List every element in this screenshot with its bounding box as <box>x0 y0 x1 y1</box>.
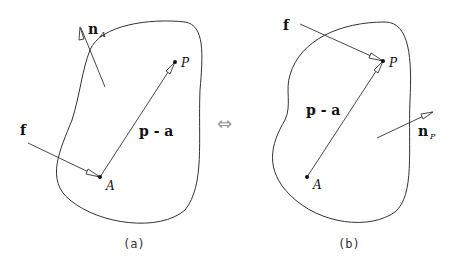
point-A-label-b: A <box>312 178 322 192</box>
vector-label-a: p - a <box>139 123 173 139</box>
caption-b: (b) <box>338 237 360 251</box>
point-A-a <box>98 175 102 179</box>
point-P-b <box>381 59 385 63</box>
normal-label-b: n <box>418 123 428 139</box>
arrowhead-nP <box>421 112 433 119</box>
arrowhead-pa-a <box>166 62 175 74</box>
panel-a: n A f p - a P A (a) <box>20 21 202 251</box>
normal-label-a: n <box>88 21 98 37</box>
diagram-canvas: n A f p - a P A (a) ⇔ f p - a n P P <box>0 0 453 270</box>
rigid-body-outline-a <box>56 21 201 223</box>
equivalence-icon: ⇔ <box>217 113 232 134</box>
arrowhead-pa-b <box>374 61 383 73</box>
panel-b: f p - a n P P A (b) <box>273 17 437 251</box>
normal-subscript-a: A <box>99 30 106 39</box>
force-label-a: f <box>20 122 27 138</box>
position-vector-a <box>100 63 174 177</box>
point-P-label-b: P <box>388 56 398 70</box>
point-A-b <box>305 175 309 179</box>
force-label-b: f <box>283 17 290 33</box>
caption-a: (a) <box>123 237 145 251</box>
normal-subscript-b: P <box>429 132 436 141</box>
point-P-a <box>173 60 177 64</box>
point-A-label-a: A <box>105 179 115 193</box>
vector-label-b: p - a <box>306 102 340 118</box>
arrowhead-f-b <box>369 53 383 61</box>
rigid-body-outline-b <box>273 22 411 222</box>
arrowhead-f-a <box>86 169 100 177</box>
point-P-label-a: P <box>180 56 190 70</box>
position-vector-b <box>307 62 382 177</box>
